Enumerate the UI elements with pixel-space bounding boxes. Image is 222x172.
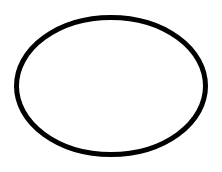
ellipse-shape xyxy=(17,18,206,155)
diagram-svg xyxy=(0,0,222,172)
diagram-canvas xyxy=(0,0,222,172)
